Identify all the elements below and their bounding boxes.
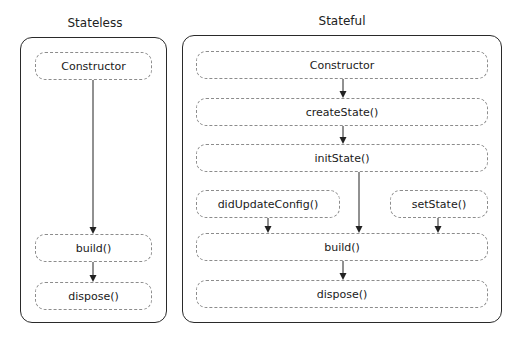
- arrow-stateful-didupdateconfig-to-build: [265, 218, 272, 233]
- arrow-stateful-constructor-to-createstate: [340, 79, 347, 98]
- flow-arrows: [0, 0, 518, 338]
- arrow-stateless-constructor-to-build: [90, 80, 97, 234]
- arrow-stateful-createstate-to-initstate: [340, 126, 347, 144]
- arrow-stateful-setstate-to-build: [435, 218, 442, 233]
- arrow-stateful-initstate-to-build: [356, 172, 363, 233]
- arrow-stateful-build-to-dispose: [340, 261, 347, 280]
- arrow-stateless-build-to-dispose: [90, 262, 97, 282]
